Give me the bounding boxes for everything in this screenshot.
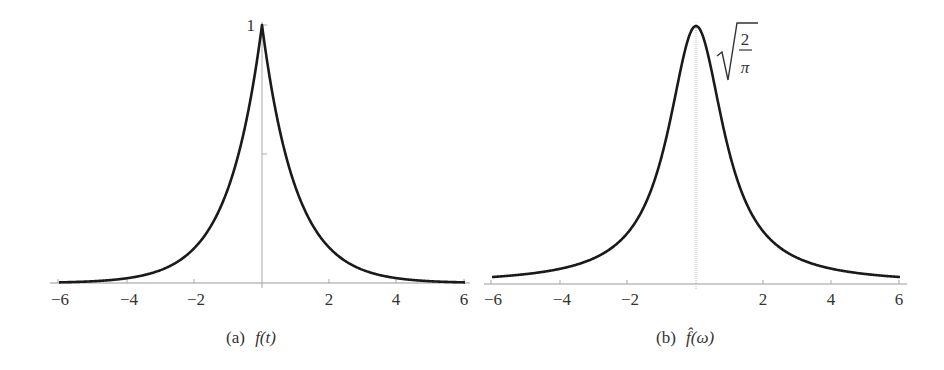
caption-b: (b) f̂(ω) (656, 327, 714, 347)
svg-text:2: 2 (741, 30, 750, 49)
svg-text:6: 6 (460, 290, 469, 309)
svg-text:−2: −2 (187, 290, 205, 309)
chart-b: −6 −4 −2 2 4 6 2 π (b) f̂(ω) (484, 22, 907, 347)
peak-label-sqrt-2-over-pi: 2 π (717, 23, 758, 80)
svg-text:2: 2 (325, 290, 334, 309)
figure: 1 −6 −4 −2 2 4 6 (a) f(t) −6 −4 (0, 0, 944, 370)
svg-text:6: 6 (895, 290, 904, 309)
series-line-f-hat-omega (492, 26, 900, 277)
y-tick-label-1: 1 (247, 16, 256, 35)
caption-a: (a) f(t) (226, 328, 276, 347)
radical-sign (717, 23, 758, 80)
svg-text:−2: −2 (621, 290, 639, 309)
svg-text:2: 2 (759, 290, 768, 309)
svg-text:−6: −6 (484, 290, 502, 309)
svg-text:π: π (741, 58, 750, 77)
svg-text:−4: −4 (553, 290, 572, 309)
svg-text:4: 4 (392, 290, 401, 309)
svg-text:4: 4 (827, 290, 836, 309)
x-tick-labels: −6 −4 −2 2 4 6 (484, 290, 903, 309)
x-ticks (491, 280, 899, 284)
svg-text:−4: −4 (120, 290, 139, 309)
svg-text:−6: −6 (51, 290, 69, 309)
chart-a: 1 −6 −4 −2 2 4 6 (a) f(t) (50, 16, 470, 347)
x-tick-labels: −6 −4 −2 2 4 6 (51, 290, 468, 309)
